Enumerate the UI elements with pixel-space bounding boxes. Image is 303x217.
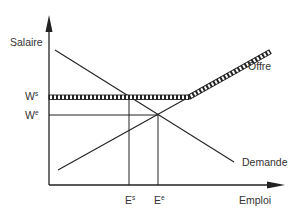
supply-curve-label: Offre <box>248 61 271 72</box>
supply-curve <box>58 97 189 170</box>
x-axis <box>49 182 285 189</box>
minimum-wage-label: Ws <box>25 91 38 102</box>
y-axis-arrow-icon <box>46 15 53 32</box>
employment-superscript: s <box>132 194 135 201</box>
employment-superscript: e <box>161 194 165 201</box>
employment-symbol: E <box>125 194 132 206</box>
wage-symbol: W <box>25 109 35 121</box>
y-axis-label: Salaire <box>10 37 43 48</box>
wage-superscript: s <box>35 90 38 97</box>
labor-market-diagram <box>0 0 303 217</box>
equilibrium-employment-label: Ee <box>154 195 165 206</box>
wage-superscript: e <box>35 109 39 116</box>
wage-symbol: W <box>25 90 35 102</box>
equilibrium-wage-label: We <box>25 110 39 121</box>
y-axis <box>46 15 53 185</box>
employment-symbol: E <box>154 194 161 206</box>
x-axis-label: Emploi <box>239 195 271 206</box>
employment-minimum-wage-label: Es <box>125 195 135 206</box>
effective-supply-hatched <box>49 50 271 100</box>
demand-curve-label: Demande <box>242 157 288 168</box>
demand-curve <box>55 50 234 162</box>
x-axis-arrow-icon <box>267 182 285 189</box>
